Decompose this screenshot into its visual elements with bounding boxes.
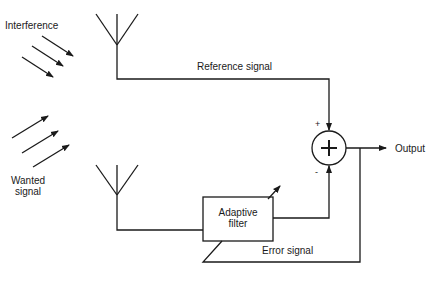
- primary-signal-path: [117, 195, 203, 230]
- adaptive-noise-canceller-diagram: [0, 0, 433, 281]
- interference-arrows: [22, 36, 73, 77]
- minus-input-label: -: [315, 167, 318, 178]
- error-signal-label: Error signal: [262, 245, 313, 256]
- interference-label: Interference: [5, 20, 58, 31]
- plus-input-label: +: [315, 119, 320, 130]
- primary-antenna-icon: [96, 165, 138, 195]
- reference-signal-label: Reference signal: [197, 61, 272, 72]
- wanted-signal-label: Wanted signal: [8, 175, 48, 197]
- output-label: Output: [395, 143, 425, 154]
- adaptive-filter-label-line2: filter: [203, 218, 273, 229]
- wanted-signal-arrows: [12, 116, 69, 167]
- wanted-signal-label-line1: Wanted: [8, 175, 48, 186]
- wanted-signal-label-line2: signal: [8, 186, 48, 197]
- plus-symbol-icon: [321, 140, 337, 156]
- adaptation-arrow: [268, 186, 280, 199]
- filter-output-path: [273, 166, 329, 218]
- adaptive-filter-label: Adaptive filter: [203, 207, 273, 229]
- adaptive-filter-label-line1: Adaptive: [203, 207, 273, 218]
- reference-antenna-icon: [96, 14, 138, 45]
- reference-signal-path: [117, 45, 329, 130]
